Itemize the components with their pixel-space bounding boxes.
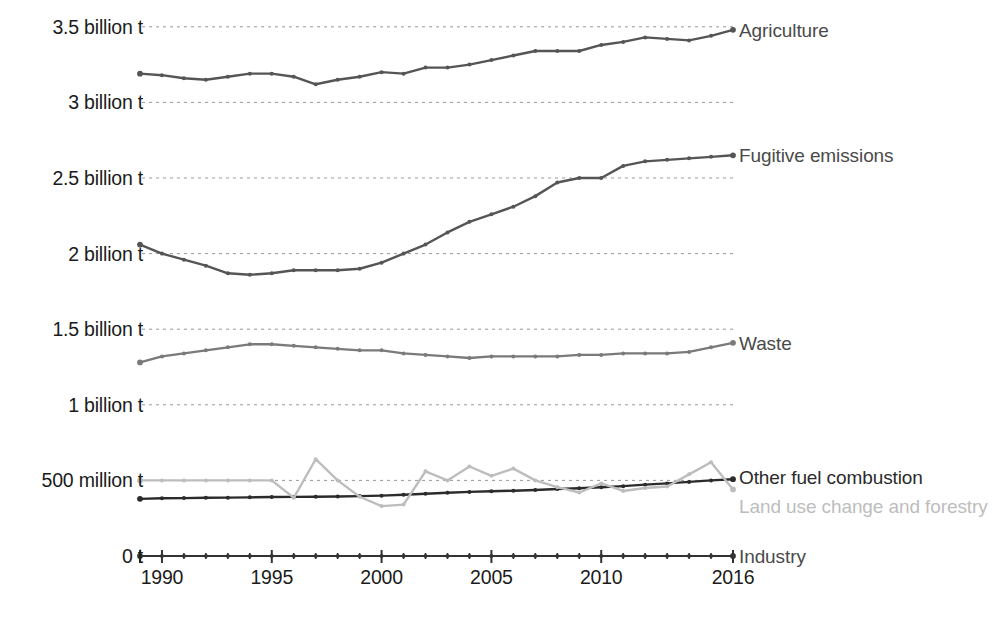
series-data-point [533,488,537,492]
series-data-point [687,156,691,160]
series-data-point [621,554,625,558]
series-data-point [292,554,296,558]
series-data-point [358,267,362,271]
series-data-point [424,554,428,558]
series-data-point [599,176,603,180]
series-data-point [511,489,515,493]
series-data-point [380,504,384,508]
series-data-point [511,205,515,209]
series-data-point [643,351,647,355]
series-data-point [665,484,669,488]
series-data-point [621,489,625,493]
series-data-point [665,554,669,558]
series-data-point [687,350,691,354]
series-data-point [182,76,186,80]
series-data-point [270,271,274,275]
series-data-point [226,478,230,482]
series-data-point [248,495,252,499]
series-data-point [467,356,471,360]
series-label-land-use-change-and-forestry: Land use change and forestry [739,497,988,516]
series-data-point [511,354,515,358]
series-data-point [489,554,493,558]
series-data-point [687,554,691,558]
gridlines-group [142,27,733,481]
series-label-agriculture: Agriculture [739,21,829,40]
series-data-point [489,212,493,216]
series-data-point [665,37,669,41]
series-data-point [599,485,603,489]
series-data-point [182,258,186,262]
series-data-point [467,554,471,558]
series-data-point [445,66,449,70]
series-data-point [511,54,515,58]
series-data-point [402,554,406,558]
series-data-point [270,72,274,76]
series-data-point [445,554,449,558]
series-data-point [292,496,296,500]
series-data-point [336,347,340,351]
series-data-point [577,486,581,490]
series-group [137,27,736,559]
series-data-point [160,354,164,358]
series-data-point [160,252,164,256]
series-data-point [204,264,208,268]
series-data-point [182,478,186,482]
series-data-point [137,496,143,502]
series-data-point [621,484,625,488]
series-data-point [380,554,384,558]
series-data-point [643,159,647,163]
series-data-point [555,554,559,558]
series-data-point [336,78,340,82]
x-axis-tick-label: 2016 [712,566,755,589]
series-data-point [533,554,537,558]
series-data-point [336,478,340,482]
series-data-point [336,494,340,498]
series-data-point [270,554,274,558]
y-axis-tick-label: 2.5 billion t [52,167,143,190]
series-data-point [424,469,428,473]
series-data-point [643,554,647,558]
series-data-point [402,493,406,497]
series-data-point [730,340,736,346]
series-data-point [489,474,493,478]
series-data-point [424,243,428,247]
series-data-point [709,34,713,38]
series-data-point [533,49,537,53]
series-data-point [226,496,230,500]
series-data-point [643,486,647,490]
series-data-point [160,478,164,482]
series-data-point [577,491,581,495]
series-data-point [314,82,318,86]
series-data-point [204,478,208,482]
y-axis-tick-label: 3 billion t [68,91,143,114]
series-data-point [599,43,603,47]
series-data-point [599,353,603,357]
series-data-point [248,342,252,346]
series-data-point [248,554,252,558]
series-data-point [709,478,713,482]
series-data-point [489,354,493,358]
series-data-point [270,495,274,499]
series-data-point [182,351,186,355]
series-data-point [555,485,559,489]
y-axis-tick-label: 3.5 billion t [52,15,143,38]
series-data-point [292,75,296,79]
series-data-point [730,476,736,482]
series-data-point [445,354,449,358]
series-data-point [643,35,647,39]
series-data-point [621,40,625,44]
y-axis-tick-label: 500 million t [42,469,143,492]
series-data-point [270,342,274,346]
x-axis-tick-label: 1990 [141,566,184,589]
series-data-point [511,554,515,558]
series-data-point [621,351,625,355]
series-data-point [424,353,428,357]
series-data-point [665,351,669,355]
series-data-point [137,71,143,77]
line-chart-plot [0,0,997,625]
series-data-point [314,495,318,499]
y-axis-tick-label: 1.5 billion t [52,318,143,341]
series-data-point [709,554,713,558]
series-data-point [402,503,406,507]
series-data-point [292,268,296,272]
